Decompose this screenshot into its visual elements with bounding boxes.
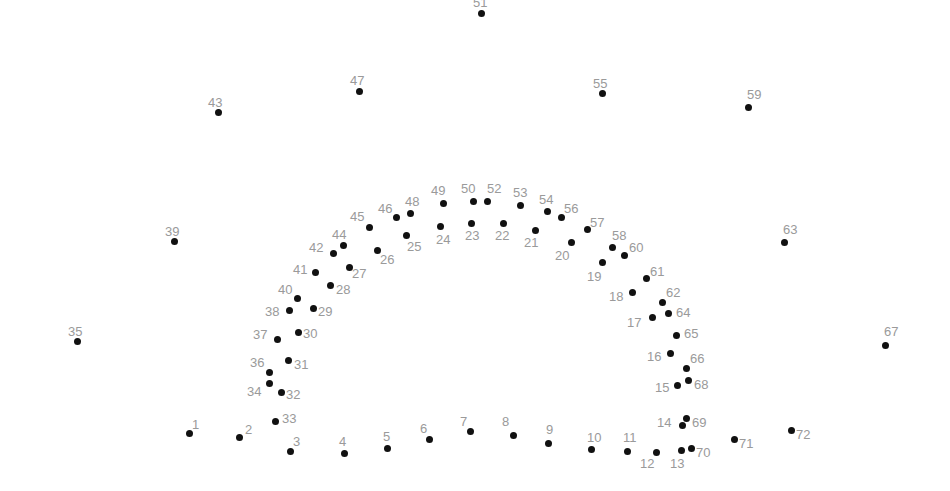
dot-label-58: 58	[612, 229, 626, 242]
dot-45	[366, 224, 373, 231]
dot-46	[393, 214, 400, 221]
dot-60	[621, 252, 628, 259]
dot-label-15: 15	[655, 381, 669, 394]
dot-label-37: 37	[253, 328, 267, 341]
dot-label-72: 72	[796, 428, 810, 441]
dot-label-3: 3	[293, 435, 300, 448]
dot-label-47: 47	[350, 74, 364, 87]
dot-50	[470, 198, 477, 205]
dot-label-14: 14	[657, 416, 671, 429]
dot-65	[673, 332, 680, 339]
dot-label-5: 5	[383, 430, 390, 443]
dot-37	[274, 336, 281, 343]
dot-6	[426, 436, 433, 443]
dot-label-8: 8	[502, 415, 509, 428]
dot-label-49: 49	[431, 184, 445, 197]
dot-label-24: 24	[436, 233, 450, 246]
dot-41	[312, 269, 319, 276]
dot-label-2: 2	[245, 423, 252, 436]
dot-label-20: 20	[555, 249, 569, 262]
dot-label-66: 66	[690, 352, 704, 365]
dot-label-59: 59	[747, 88, 761, 101]
dot-label-67: 67	[884, 325, 898, 338]
dot-label-27: 27	[352, 267, 366, 280]
dot-label-29: 29	[318, 305, 332, 318]
dot-label-11: 11	[623, 431, 637, 444]
dot-label-7: 7	[460, 415, 467, 428]
dot-48	[407, 210, 414, 217]
dot-label-48: 48	[405, 195, 419, 208]
dot-42	[330, 250, 337, 257]
dot-52	[484, 198, 491, 205]
dot-label-60: 60	[629, 241, 643, 254]
dot-label-25: 25	[407, 240, 421, 253]
dot-label-19: 19	[587, 270, 601, 283]
dot-53	[517, 202, 524, 209]
dot-label-26: 26	[380, 253, 394, 266]
dot-54	[544, 208, 551, 215]
dot-label-71: 71	[739, 437, 753, 450]
dot-label-46: 46	[378, 202, 392, 215]
dot-47	[356, 88, 363, 95]
dot-20	[568, 239, 575, 246]
dot-to-dot-canvas: 1234567891011121314151617181920212223242…	[0, 0, 950, 491]
dot-5	[384, 445, 391, 452]
dot-label-22: 22	[495, 229, 509, 242]
dot-label-17: 17	[627, 316, 641, 329]
dot-label-51: 51	[473, 0, 487, 9]
dot-58	[609, 244, 616, 251]
dot-18	[629, 289, 636, 296]
dot-label-33: 33	[282, 412, 296, 425]
dot-label-10: 10	[587, 431, 601, 444]
dot-label-39: 39	[165, 225, 179, 238]
dot-19	[599, 259, 606, 266]
dot-label-45: 45	[350, 210, 364, 223]
dot-38	[286, 307, 293, 314]
dot-label-16: 16	[647, 350, 661, 363]
dot-16	[667, 350, 674, 357]
dot-69	[683, 415, 690, 422]
dot-label-40: 40	[278, 283, 292, 296]
dot-4	[341, 450, 348, 457]
dot-15	[674, 382, 681, 389]
dot-label-6: 6	[420, 422, 427, 435]
dot-label-44: 44	[332, 228, 346, 241]
dot-33	[272, 418, 279, 425]
dot-11	[624, 448, 631, 455]
dot-label-56: 56	[564, 202, 578, 215]
dot-12	[653, 449, 660, 456]
dot-34	[266, 380, 273, 387]
dot-label-65: 65	[684, 327, 698, 340]
dot-label-38: 38	[265, 305, 279, 318]
dot-label-36: 36	[250, 356, 264, 369]
dot-7	[467, 428, 474, 435]
dot-label-35: 35	[68, 325, 82, 338]
dot-71	[731, 436, 738, 443]
dot-22	[500, 220, 507, 227]
dot-13	[678, 447, 685, 454]
dot-label-21: 21	[524, 236, 538, 249]
dot-49	[440, 200, 447, 207]
dot-label-34: 34	[247, 385, 261, 398]
dot-32	[278, 389, 285, 396]
dot-36	[266, 369, 273, 376]
dot-14	[679, 422, 686, 429]
dot-51	[478, 10, 485, 17]
dot-25	[403, 232, 410, 239]
dot-label-53: 53	[513, 186, 527, 199]
dot-label-52: 52	[487, 182, 501, 195]
dot-label-64: 64	[676, 306, 690, 319]
dot-29	[310, 305, 317, 312]
dot-label-70: 70	[696, 446, 710, 459]
dot-72	[788, 427, 795, 434]
dot-40	[294, 295, 301, 302]
dot-62	[659, 299, 666, 306]
dot-label-9: 9	[546, 423, 553, 436]
dot-61	[643, 275, 650, 282]
dot-23	[468, 220, 475, 227]
dot-68	[685, 377, 692, 384]
dot-44	[340, 242, 347, 249]
dot-label-63: 63	[783, 223, 797, 236]
dot-label-62: 62	[666, 286, 680, 299]
dot-label-32: 32	[286, 388, 300, 401]
